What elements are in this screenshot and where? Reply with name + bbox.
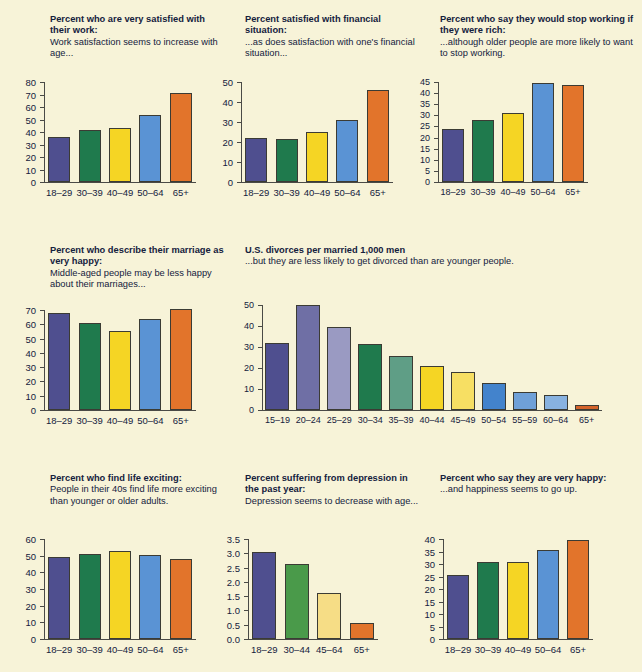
y-tick-label-life-exciting-6: 60 bbox=[16, 534, 36, 545]
y-tick-work-satisfaction-6 bbox=[40, 107, 44, 108]
x-tick-label-depression-past-year-1: 30–44 bbox=[281, 644, 314, 655]
y-tick-label-divorces-per-1000-men-4: 40 bbox=[234, 321, 254, 331]
y-tick-label-divorces-per-1000-men-2: 20 bbox=[234, 363, 254, 373]
chart-title-marriage-very-happy: Percent who describe their marriage as v… bbox=[50, 245, 230, 268]
x-tick-label-depression-past-year-2: 45–64 bbox=[313, 644, 346, 655]
x-tick-label-marriage-very-happy-1: 30–39 bbox=[74, 415, 104, 426]
bar-stop-working-if-rich-4 bbox=[562, 85, 584, 182]
x-tick-label-marriage-very-happy-3: 50–64 bbox=[135, 415, 165, 426]
bar-divorces-per-1000-men-1 bbox=[296, 305, 320, 410]
y-tick-stop-working-if-rich-1 bbox=[434, 171, 438, 172]
x-tick-label-divorces-per-1000-men-1: 20–24 bbox=[293, 415, 324, 425]
bar-financial-satisfaction-3 bbox=[336, 120, 358, 182]
y-tick-stop-working-if-rich-8 bbox=[434, 93, 438, 94]
x-axis-stop-working-if-rich bbox=[438, 182, 588, 183]
y-tick-work-satisfaction-3 bbox=[40, 145, 44, 146]
y-tick-life-exciting-4 bbox=[40, 572, 44, 573]
y-tick-life-exciting-6 bbox=[40, 539, 44, 540]
x-axis-very-happy bbox=[443, 639, 593, 640]
y-tick-label-financial-satisfaction-1: 10 bbox=[213, 157, 233, 168]
chart-caption-stop-working-if-rich: Percent who say they would stop working … bbox=[440, 14, 635, 59]
y-tick-label-marriage-very-happy-0: 0 bbox=[16, 405, 36, 416]
x-tick-label-very-happy-3: 50–64 bbox=[533, 644, 563, 655]
y-tick-very-happy-2 bbox=[439, 614, 443, 615]
y-axis-stop-working-if-rich bbox=[438, 82, 439, 182]
chart-title-very-happy: Percent who say they are very happy: bbox=[440, 473, 630, 484]
chart-plot-financial-satisfaction: 0102030405018–2930–3940–4950–6465+ bbox=[241, 82, 393, 182]
chart-plot-very-happy: 051015202530354018–2930–3940–4950–6465+ bbox=[443, 539, 593, 639]
chart-caption-divorces-per-1000-men: U.S. divorces per married 1,000 men...bu… bbox=[245, 245, 625, 268]
y-tick-depression-past-year-2 bbox=[244, 610, 248, 611]
y-tick-marriage-very-happy-1 bbox=[40, 396, 44, 397]
y-tick-financial-satisfaction-2 bbox=[237, 142, 241, 143]
y-tick-label-very-happy-5: 25 bbox=[415, 571, 435, 582]
y-tick-label-marriage-very-happy-3: 30 bbox=[16, 362, 36, 373]
chart-plot-stop-working-if-rich: 05101520253035404518–2930–3940–4950–6465… bbox=[438, 82, 588, 182]
bar-work-satisfaction-0 bbox=[48, 137, 70, 182]
y-tick-label-life-exciting-3: 30 bbox=[16, 584, 36, 595]
bar-financial-satisfaction-1 bbox=[276, 139, 298, 182]
x-tick-label-work-satisfaction-4: 65+ bbox=[166, 187, 196, 198]
chart-caption-work-satisfaction: Percent who are very satisfied with thei… bbox=[50, 14, 220, 59]
y-tick-label-depression-past-year-6: 3.0 bbox=[216, 548, 240, 559]
x-tick-label-work-satisfaction-0: 18–29 bbox=[44, 187, 74, 198]
y-tick-financial-satisfaction-1 bbox=[237, 162, 241, 163]
y-axis-very-happy bbox=[443, 539, 444, 639]
bar-depression-past-year-2 bbox=[317, 593, 341, 639]
y-tick-label-divorces-per-1000-men-5: 50 bbox=[234, 300, 254, 310]
bar-very-happy-0 bbox=[447, 575, 469, 639]
x-tick-label-work-satisfaction-3: 50–64 bbox=[135, 187, 165, 198]
x-tick-label-stop-working-if-rich-0: 18–29 bbox=[438, 187, 468, 197]
y-tick-very-happy-8 bbox=[439, 539, 443, 540]
bar-life-exciting-1 bbox=[79, 554, 101, 639]
y-tick-financial-satisfaction-0 bbox=[237, 182, 241, 183]
y-tick-label-work-satisfaction-5: 50 bbox=[16, 114, 36, 125]
chart-caption-marriage-very-happy: Percent who describe their marriage as v… bbox=[50, 245, 230, 290]
y-tick-stop-working-if-rich-6 bbox=[434, 115, 438, 116]
y-tick-label-stop-working-if-rich-2: 10 bbox=[410, 155, 430, 165]
chart-title-stop-working-if-rich: Percent who say they would stop working … bbox=[440, 14, 635, 37]
x-tick-label-stop-working-if-rich-1: 30–39 bbox=[468, 187, 498, 197]
y-tick-depression-past-year-7 bbox=[244, 539, 248, 540]
chart-subtitle-stop-working-if-rich: ...although older people are more likely… bbox=[440, 37, 635, 60]
bar-divorces-per-1000-men-3 bbox=[358, 344, 382, 410]
bar-divorces-per-1000-men-0 bbox=[265, 343, 289, 410]
bar-very-happy-1 bbox=[477, 562, 499, 639]
bar-very-happy-2 bbox=[507, 562, 529, 640]
y-tick-divorces-per-1000-men-1 bbox=[258, 389, 262, 390]
bar-stop-working-if-rich-2 bbox=[502, 113, 524, 182]
y-tick-label-life-exciting-5: 50 bbox=[16, 550, 36, 561]
y-tick-financial-satisfaction-3 bbox=[237, 122, 241, 123]
y-tick-label-work-satisfaction-8: 80 bbox=[16, 77, 36, 88]
y-tick-label-stop-working-if-rich-1: 5 bbox=[410, 166, 430, 176]
x-tick-label-depression-past-year-3: 65+ bbox=[346, 644, 379, 655]
bar-depression-past-year-0 bbox=[252, 552, 276, 639]
y-tick-label-financial-satisfaction-4: 40 bbox=[213, 97, 233, 108]
chart-plot-depression-past-year: 0.00.51.01.52.02.53.03.518–2930–4445–646… bbox=[248, 539, 378, 639]
chart-plot-work-satisfaction: 0102030405060708018–2930–3940–4950–6465+ bbox=[44, 82, 196, 182]
y-tick-label-divorces-per-1000-men-3: 30 bbox=[234, 342, 254, 352]
y-tick-financial-satisfaction-4 bbox=[237, 102, 241, 103]
x-tick-label-marriage-very-happy-0: 18–29 bbox=[44, 415, 74, 426]
y-tick-label-marriage-very-happy-6: 60 bbox=[16, 319, 36, 330]
y-tick-label-depression-past-year-4: 2.0 bbox=[216, 576, 240, 587]
y-tick-depression-past-year-6 bbox=[244, 553, 248, 554]
y-tick-very-happy-1 bbox=[439, 627, 443, 628]
y-tick-marriage-very-happy-0 bbox=[40, 410, 44, 411]
y-tick-depression-past-year-1 bbox=[244, 625, 248, 626]
y-tick-marriage-very-happy-6 bbox=[40, 324, 44, 325]
y-tick-very-happy-0 bbox=[439, 639, 443, 640]
chart-caption-life-exciting: Percent who find life exciting:People in… bbox=[50, 473, 235, 507]
y-tick-stop-working-if-rich-5 bbox=[434, 126, 438, 127]
y-tick-financial-satisfaction-5 bbox=[237, 82, 241, 83]
y-axis-depression-past-year bbox=[248, 539, 249, 639]
y-tick-label-financial-satisfaction-2: 20 bbox=[213, 137, 233, 148]
y-tick-label-marriage-very-happy-4: 40 bbox=[16, 347, 36, 358]
y-tick-life-exciting-3 bbox=[40, 589, 44, 590]
y-axis-marriage-very-happy bbox=[44, 310, 45, 410]
x-tick-label-divorces-per-1000-men-8: 55–59 bbox=[509, 415, 540, 425]
x-tick-label-stop-working-if-rich-3: 50–64 bbox=[528, 187, 558, 197]
y-tick-marriage-very-happy-5 bbox=[40, 339, 44, 340]
y-tick-label-very-happy-8: 40 bbox=[415, 534, 435, 545]
x-tick-label-divorces-per-1000-men-6: 45–49 bbox=[447, 415, 478, 425]
